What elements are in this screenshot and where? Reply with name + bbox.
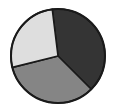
pie-chart-figure bbox=[0, 0, 113, 110]
pie-chart-svg bbox=[0, 0, 113, 110]
